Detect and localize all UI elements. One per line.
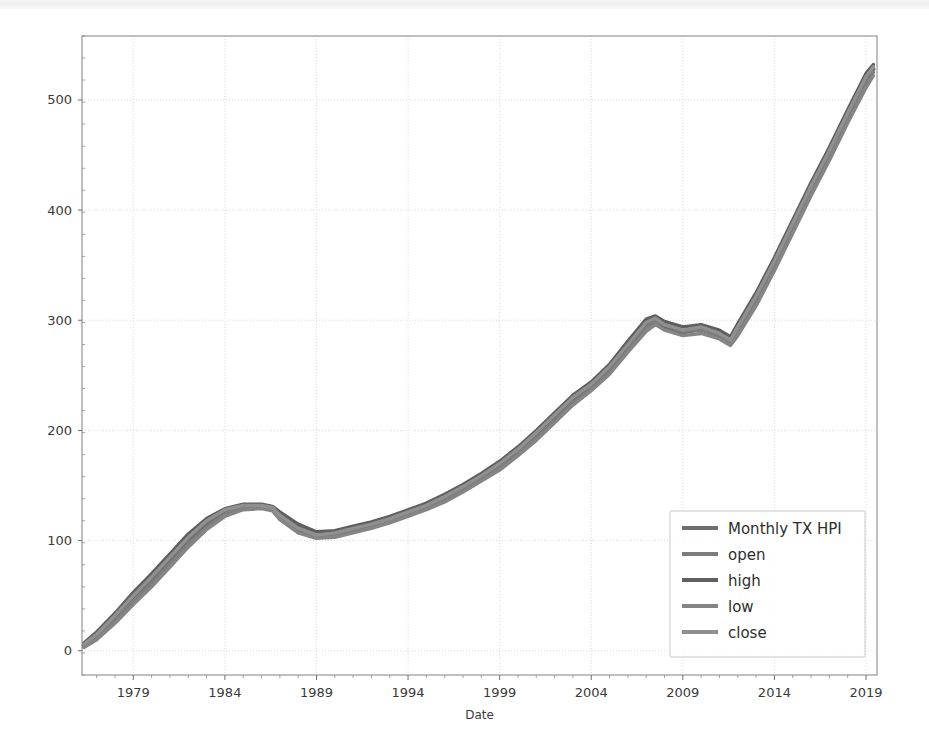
y-tick-label: 100 [47, 533, 72, 548]
line-chart-svg: 0100200300400500 19791984198919941999200… [0, 0, 929, 743]
chart-legend[interactable]: Monthly TX HPIopenhighlowclose [670, 511, 865, 657]
y-tick-label: 0 [64, 643, 72, 658]
x-tick-label: 1984 [208, 685, 241, 700]
legend-label-low[interactable]: low [728, 598, 754, 616]
x-tick-label: 2019 [849, 685, 882, 700]
y-tick-label: 200 [47, 423, 72, 438]
x-axis-title: Date [465, 708, 494, 722]
x-tick-label: 2014 [758, 685, 791, 700]
x-tick-label: 1994 [392, 685, 425, 700]
x-tick-label: 1999 [483, 685, 516, 700]
legend-label-monthly-tx-hpi[interactable]: Monthly TX HPI [728, 520, 842, 538]
x-tick-label: 1989 [300, 685, 333, 700]
legend-label-open[interactable]: open [728, 546, 765, 564]
x-tick-label: 2009 [666, 685, 699, 700]
y-tick-label: 400 [47, 203, 72, 218]
legend-label-close[interactable]: close [728, 624, 767, 642]
x-tick-label: 1979 [117, 685, 150, 700]
x-tick-label: 2004 [575, 685, 608, 700]
y-tick-label: 300 [47, 313, 72, 328]
y-axis-tick-labels: 0100200300400500 [47, 92, 72, 658]
chart-figure: 0100200300400500 19791984198919941999200… [0, 0, 929, 743]
x-axis-tick-labels: 197919841989199419992004200920142019 [117, 685, 883, 700]
y-tick-label: 500 [47, 92, 72, 107]
legend-label-high[interactable]: high [728, 572, 761, 590]
